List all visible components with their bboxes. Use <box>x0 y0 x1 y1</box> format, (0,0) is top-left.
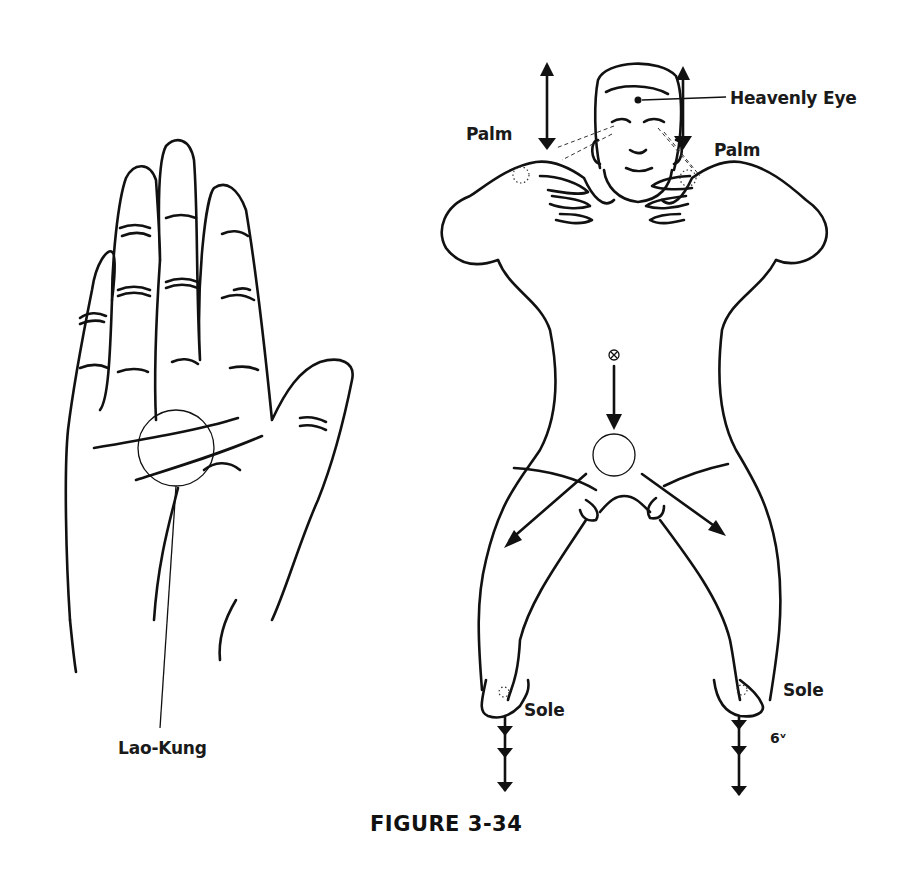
heavenly-eye-label: Heavenly Eye <box>730 88 857 108</box>
palm-label-right: Palm <box>714 140 760 160</box>
tan-tien-circle <box>593 434 635 476</box>
lao-kung-leader-line <box>160 486 176 728</box>
sole-point-left <box>499 687 509 697</box>
lao-kung-point-circle <box>138 410 214 486</box>
lao-kung-label: Lao-Kung <box>118 738 207 758</box>
figure-caption: FIGURE 3-34 <box>370 812 522 836</box>
palm-label-left: Palm <box>466 124 512 144</box>
heavenly-eye-dot <box>635 97 642 104</box>
body-drawing <box>442 62 827 796</box>
hand-drawing <box>66 140 353 728</box>
annotation-mark: 6ᵛ <box>770 730 786 746</box>
sole-label-right: Sole <box>783 680 823 700</box>
figure: Lao-Kung Heavenly Eye Palm Palm Sole Sol… <box>0 0 906 869</box>
sole-label-left: Sole <box>524 700 564 720</box>
